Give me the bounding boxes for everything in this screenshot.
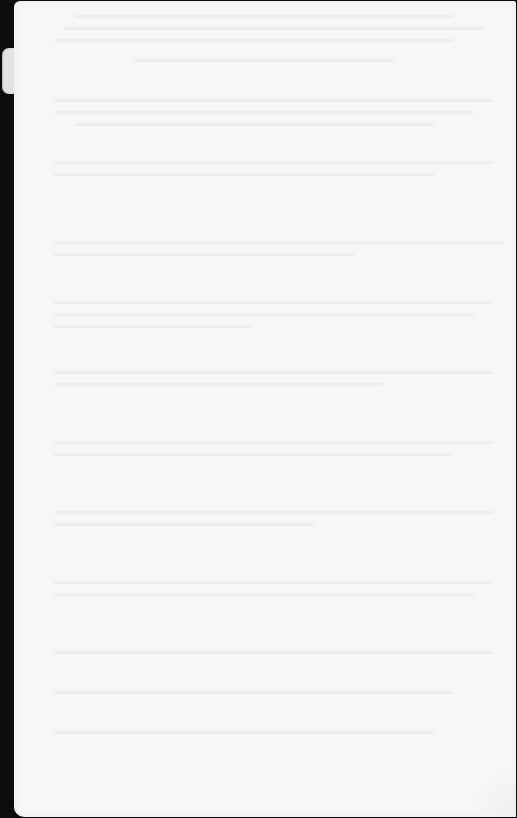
show-through-line — [54, 453, 454, 456]
show-through-line — [54, 325, 254, 328]
show-through-line — [54, 161, 494, 164]
show-through-line — [54, 593, 474, 596]
show-through-line — [54, 383, 384, 386]
show-through-line — [54, 651, 494, 654]
show-through-line — [54, 111, 474, 114]
show-through-line — [54, 301, 494, 304]
show-through-line — [54, 441, 494, 444]
show-through-line — [54, 39, 454, 42]
show-through-line — [74, 15, 454, 18]
show-through-line — [54, 691, 454, 694]
show-through-line — [54, 241, 504, 244]
show-through-line — [74, 123, 434, 126]
show-through-line — [54, 731, 434, 734]
show-through-line — [54, 511, 494, 514]
show-through-line — [54, 523, 314, 526]
show-through-line — [54, 371, 494, 374]
show-through-line — [64, 27, 484, 30]
show-through-line — [134, 59, 394, 62]
show-through-line — [54, 99, 494, 102]
show-through-line — [54, 313, 474, 316]
blank-page — [14, 1, 516, 817]
show-through-line — [54, 173, 434, 176]
show-through-line — [54, 581, 494, 584]
show-through-line — [54, 253, 354, 256]
